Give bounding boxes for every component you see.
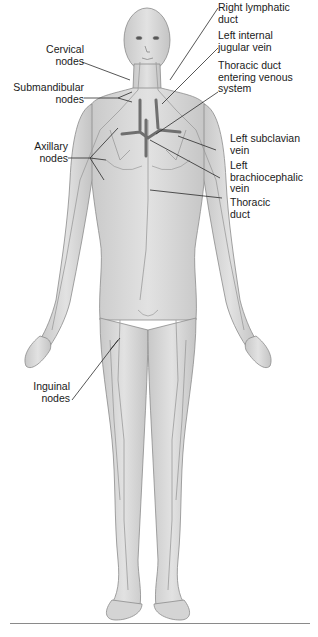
inguinal-nodes-label: Inguinal nodes [10,381,70,404]
thoracic-duct-entering-venous-system-label: Thoracic duct entering venous system [218,60,293,95]
bottom-rule [10,623,310,624]
right-lymphatic-duct-label: Right lymphatic duct [218,2,290,25]
left-internal-jugular-vein-label: Left internal jugular vein [218,30,273,53]
submandibular-nodes-label: Submandibular nodes [0,82,84,105]
axillary-nodes-label: Axillary nodes [10,141,68,164]
cervical-nodes-label: Cervical nodes [16,44,84,67]
left-brachiocephalic-vein-label: Left brachiocephalic vein [230,160,303,195]
thoracic-duct-label: Thoracic duct [230,197,270,220]
left-subclavian-vein-label: Left subclavian vein [230,133,300,156]
